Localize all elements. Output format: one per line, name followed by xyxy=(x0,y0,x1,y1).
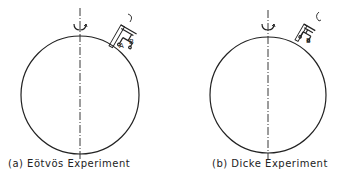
balance-rotation-arrow-icon xyxy=(317,12,322,21)
torsion-balance xyxy=(109,25,139,56)
panel-a-eotvos xyxy=(21,8,139,160)
mass-b-label: B xyxy=(129,38,134,46)
mass-b-label: B xyxy=(306,37,311,45)
caption-a: (a) Eötvös Experiment xyxy=(8,158,130,169)
balance-rotation-arrow-icon xyxy=(128,14,132,22)
caption-b: (b) Dicke Experiment xyxy=(212,158,328,169)
mass-a-label: A xyxy=(119,42,124,50)
panel-b-dicke xyxy=(210,10,326,160)
